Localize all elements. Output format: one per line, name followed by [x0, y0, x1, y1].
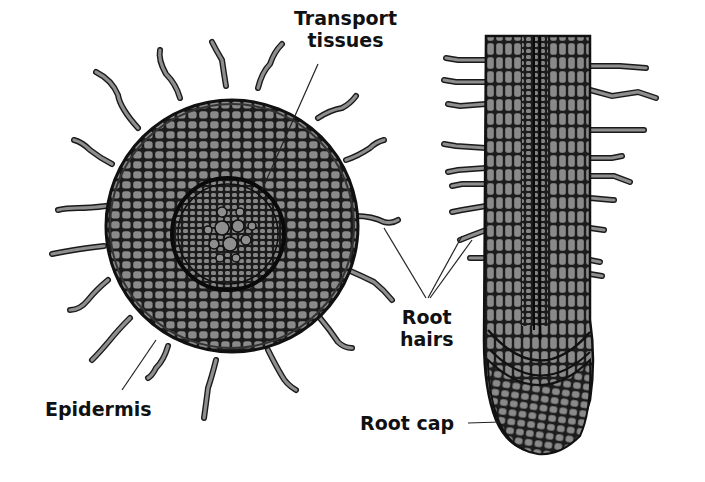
root-hairs-leader-2 [428, 236, 462, 298]
label-transport-line2: tissues [294, 29, 397, 51]
vascular-cylinder [172, 178, 284, 290]
epidermis-leader [122, 340, 156, 390]
root-hairs-leader-1 [384, 228, 426, 298]
label-root-cap: Root cap [360, 412, 454, 434]
label-root-hairs: Root hairs [400, 306, 454, 350]
root-diagram: Transport tissues Root hairs Epidermis R… [0, 0, 705, 482]
label-transport-tissues: Transport tissues [294, 7, 397, 51]
root-hairs-long-right [590, 66, 656, 276]
label-root-hairs-line2: hairs [400, 328, 454, 350]
root-hairs-long-left-fill [444, 58, 486, 258]
label-transport-line1: Transport [294, 7, 397, 29]
root-cap-leader [468, 422, 500, 423]
root-hairs-long-left [444, 58, 486, 258]
cross-section [52, 42, 398, 418]
root-hairs-leader-3 [430, 240, 472, 298]
label-epidermis: Epidermis [45, 398, 152, 420]
label-root-hairs-line1: Root [400, 306, 454, 328]
longitudinal-section [444, 36, 656, 454]
